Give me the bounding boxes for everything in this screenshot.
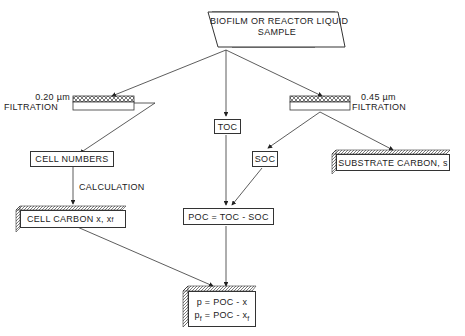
cell-numbers-box: CELL NUMBERS (30, 151, 114, 167)
calculation-label: CALCULATION (79, 182, 145, 193)
filter-large-text: FILTRATION (352, 102, 406, 113)
sample-line2: SAMPLE (210, 27, 344, 38)
substrate-carbon-box: SUBSTRATE CARBON, s (336, 154, 450, 171)
result-line1: p = POC - x (197, 297, 248, 307)
cell-carbon-sub: f (112, 216, 114, 223)
cell-carbon-text: CELL CARBON x, x (27, 214, 112, 224)
sample-label: BIOFILM OR REACTOR LIQUID SAMPLE (210, 16, 344, 38)
cell-carbon-box: CELL CARBON x, xf (20, 210, 126, 228)
soc-box: SOC (252, 151, 278, 167)
filter-small-text: FILTRATION (4, 102, 58, 113)
result-line2: pf = POC - xf (194, 310, 249, 322)
toc-box: TOC (214, 119, 241, 134)
sample-line1: BIOFILM OR REACTOR LIQUID (210, 16, 344, 27)
result-box: p = POC - x pf = POC - xf (188, 291, 256, 327)
poc-box: POC = TOC - SOC (183, 208, 274, 225)
